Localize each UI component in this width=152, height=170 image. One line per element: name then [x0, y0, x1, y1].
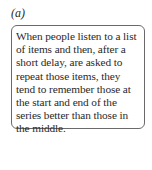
text-box: When people listen to a list of items an… — [11, 25, 145, 129]
panel-label: (a) — [11, 6, 25, 21]
panel-text: When people listen to a list of items an… — [16, 30, 140, 136]
